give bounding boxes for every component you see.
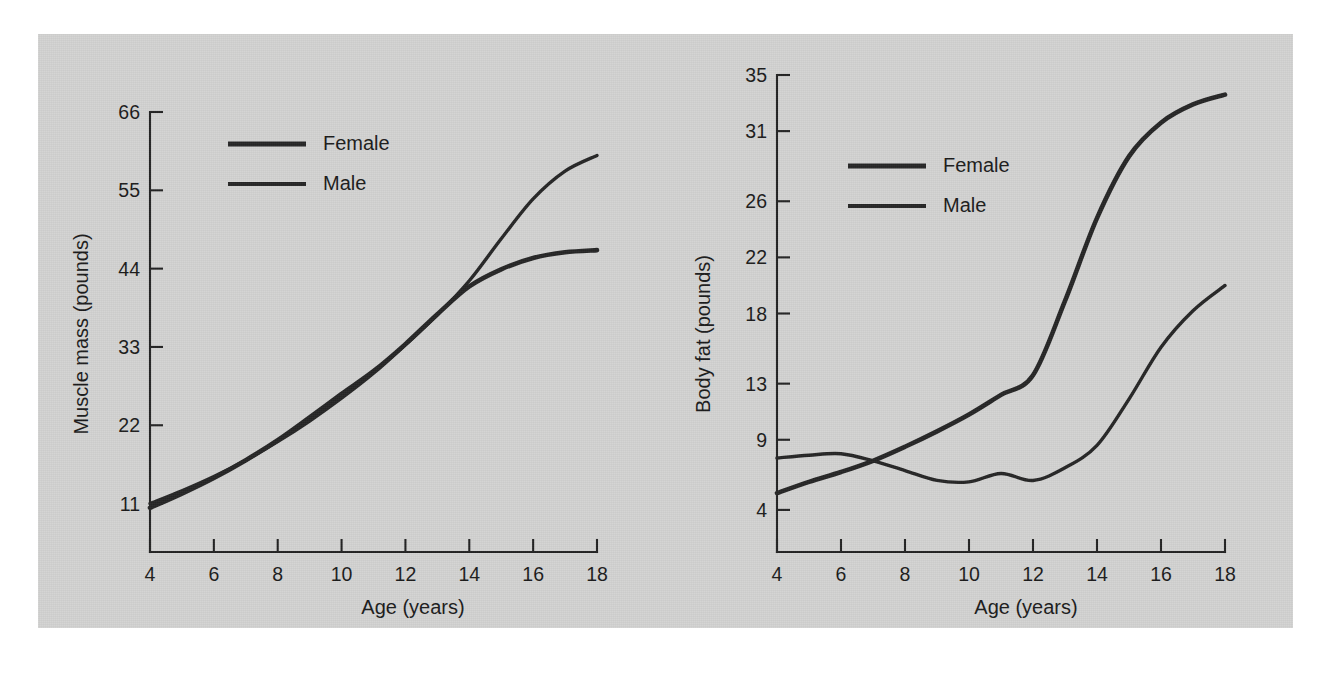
muscle-mass-y-axis-title: Muscle mass (pounds) <box>70 233 92 434</box>
y-tick-label: 26 <box>745 190 767 212</box>
x-tick-label: 10 <box>331 563 353 585</box>
legend-label-female: Female <box>323 132 390 154</box>
series-line-male <box>777 285 1225 482</box>
legend-label-male: Male <box>943 194 986 216</box>
series-line-male <box>150 155 597 503</box>
chart-muscle-mass: 1122334455664681012141618 FemaleMale Age… <box>38 34 678 628</box>
legend-label-male: Male <box>323 172 366 194</box>
x-tick-label: 8 <box>272 563 283 585</box>
x-tick-label: 6 <box>836 563 847 585</box>
body-fat-y-axis-title: Body fat (pounds) <box>692 255 714 413</box>
muscle-mass-series <box>150 155 597 507</box>
x-tick-label: 16 <box>1150 563 1172 585</box>
x-tick-label: 14 <box>1086 563 1108 585</box>
x-tick-label: 18 <box>1214 563 1236 585</box>
y-tick-label: 35 <box>745 64 767 86</box>
x-tick-label: 12 <box>395 563 417 585</box>
y-tick-label: 9 <box>756 429 767 451</box>
x-tick-label: 4 <box>772 563 783 585</box>
body-fat-ticks: 491318222631354681012141618 <box>745 64 1236 585</box>
series-line-female <box>150 250 597 508</box>
muscle-mass-x-axis-title: Age (years) <box>361 596 464 618</box>
y-tick-label: 44 <box>118 258 140 280</box>
body-fat-legend: FemaleMale <box>848 154 1010 216</box>
y-tick-label: 31 <box>745 120 767 142</box>
y-tick-label: 22 <box>118 414 140 436</box>
x-tick-label: 14 <box>458 563 480 585</box>
y-tick-label: 11 <box>120 493 140 515</box>
x-tick-label: 6 <box>208 563 219 585</box>
y-tick-label: 4 <box>756 499 767 521</box>
y-tick-label: 66 <box>118 101 140 123</box>
x-tick-label: 8 <box>900 563 911 585</box>
muscle-mass-legend: FemaleMale <box>228 132 390 194</box>
y-tick-label: 13 <box>745 373 767 395</box>
y-tick-label: 55 <box>118 179 140 201</box>
x-tick-label: 10 <box>958 563 980 585</box>
x-tick-label: 4 <box>145 563 156 585</box>
x-tick-label: 16 <box>522 563 544 585</box>
body-fat-x-axis-title: Age (years) <box>974 596 1077 618</box>
muscle-mass-axes <box>150 112 597 552</box>
chart-body-fat: 491318222631354681012141618 FemaleMale A… <box>678 34 1293 628</box>
muscle-mass-svg: 1122334455664681012141618 FemaleMale Age… <box>38 34 678 628</box>
figure-page: 1122334455664681012141618 FemaleMale Age… <box>0 0 1335 676</box>
y-tick-label: 22 <box>745 246 767 268</box>
figure-panel: 1122334455664681012141618 FemaleMale Age… <box>38 34 1293 628</box>
body-fat-axes <box>777 75 1225 552</box>
y-tick-label: 18 <box>745 303 767 325</box>
x-tick-label: 12 <box>1022 563 1044 585</box>
legend-label-female: Female <box>943 154 1010 176</box>
y-tick-label: 33 <box>118 336 140 358</box>
body-fat-svg: 491318222631354681012141618 FemaleMale A… <box>678 34 1293 628</box>
x-tick-label: 18 <box>586 563 608 585</box>
